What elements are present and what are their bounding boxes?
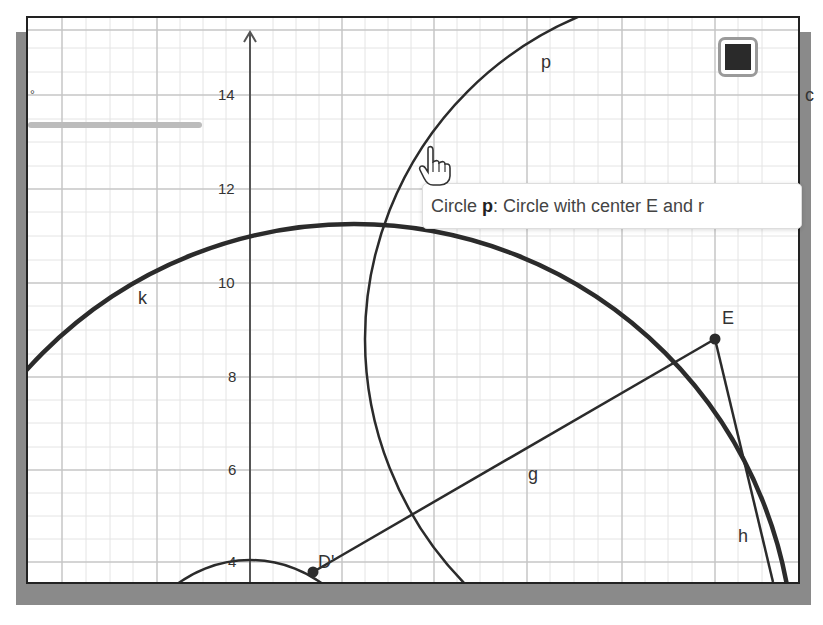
label-p[interactable]: p [541,52,551,73]
label-E[interactable]: E [722,308,734,329]
cropped-text: c [805,85,814,106]
y-tick-6: 6 [228,461,236,478]
y-tick-12: 12 [218,180,235,197]
object-tooltip: Circle p: Circle with center E and r [422,183,802,229]
slider-unit: ° [30,88,35,102]
tooltip-prefix: Circle [431,196,482,216]
color-style-button[interactable] [718,37,758,77]
label-k[interactable]: k [138,288,147,309]
label-g[interactable]: g [528,464,538,485]
tooltip-text: : Circle with center E and r [493,196,704,216]
point-E[interactable] [710,334,721,345]
graphics-view[interactable]: ° 14 12 10 8 6 4 k p g h E D' [26,16,800,584]
point-D-prime[interactable] [308,567,319,578]
y-tick-4: 4 [228,553,236,570]
segment-g [313,339,715,572]
circle-p [365,18,798,582]
label-D-prime[interactable]: D' [318,552,334,573]
color-swatch [725,44,751,70]
hand-pointer-icon [418,145,452,191]
angle-slider[interactable] [28,122,202,128]
y-tick-10: 10 [218,274,235,291]
y-tick-14: 14 [218,86,235,103]
tooltip-object: p [482,196,493,216]
y-tick-8: 8 [228,368,236,385]
label-h[interactable]: h [738,526,748,547]
